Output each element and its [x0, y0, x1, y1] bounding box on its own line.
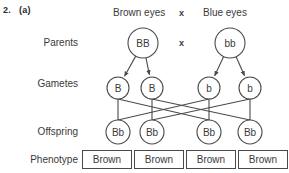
- gamete-allele-4: b: [247, 83, 253, 94]
- genotype-circles: [106, 28, 262, 144]
- genetics-cross-diagram: 2. (a) Brown eyes x Blue eyes Parents Ga…: [0, 0, 289, 173]
- arrow-parent1-gamete1: [125, 56, 136, 76]
- arrow-parent1-gamete2: [146, 58, 149, 75]
- offspring-genotype-4: Bb: [244, 127, 256, 138]
- arrow-parent2-gamete2: [236, 57, 244, 76]
- phenotype-box-2: Brown: [134, 150, 184, 169]
- gamete-allele-3: b: [206, 83, 212, 94]
- offspring-genotype-1: Bb: [112, 127, 124, 138]
- parent-genotype-2: bb: [224, 38, 235, 49]
- arrow-parent2-gamete1: [215, 57, 224, 76]
- gamete-allele-1: B: [115, 83, 122, 94]
- gamete-allele-2: B: [149, 83, 156, 94]
- offspring-genotype-2: Bb: [146, 127, 158, 138]
- offspring-genotype-3: Bb: [203, 127, 215, 138]
- parent-to-gamete-arrows: [125, 56, 245, 76]
- phenotype-box-1: Brown: [82, 150, 132, 169]
- parent-genotype-1: BB: [136, 38, 149, 49]
- diagram-wiring: [0, 0, 289, 173]
- phenotype-box-3: Brown: [186, 150, 236, 169]
- phenotype-box-4: Brown: [238, 150, 288, 169]
- gamete-to-offspring-connectors: [118, 99, 250, 120]
